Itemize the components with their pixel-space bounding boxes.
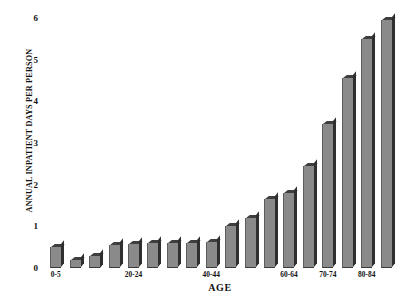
bar: [381, 20, 392, 268]
bar-slot: [376, 18, 395, 268]
bar: [245, 218, 256, 268]
bar: [225, 226, 236, 268]
bar: [361, 39, 372, 268]
bar-slot: [202, 18, 221, 268]
bar: [147, 243, 158, 268]
bar: [303, 166, 314, 268]
y-axis-title: ANNUAL INPATIENT DAYS PER PERSON: [25, 13, 34, 248]
y-axis-tick-label: 1: [34, 221, 39, 231]
bar: [167, 243, 178, 268]
y-axis-tick-label: 0: [34, 263, 39, 273]
bar-slot: [260, 18, 279, 268]
bar-slot: [299, 18, 318, 268]
bar: [128, 244, 139, 268]
bar-slot: [46, 18, 65, 268]
bar-slot: [240, 18, 259, 268]
x-axis-tick-label: 20-24: [125, 270, 142, 279]
y-axis-tick-label: 6: [34, 13, 39, 23]
bar: [50, 247, 61, 268]
bar: [264, 199, 275, 268]
bar-slot: [65, 18, 84, 268]
x-axis-tick-label: 60-64: [280, 270, 297, 279]
bar-slot: [221, 18, 240, 268]
bar: [70, 260, 81, 268]
bar-slot: [338, 18, 357, 268]
bar-chart: ANNUAL INPATIENT DAYS PER PERSON 0123456…: [0, 0, 405, 299]
bars-container: [42, 18, 398, 268]
bar-slot: [104, 18, 123, 268]
x-axis-tick-label: 40-44: [203, 270, 220, 279]
x-axis-title: AGE: [42, 282, 398, 293]
bar-slot: [143, 18, 162, 268]
bar: [283, 193, 294, 268]
bar-slot: [163, 18, 182, 268]
y-axis-tick-label: 5: [34, 55, 39, 65]
y-axis-tick-label: 4: [34, 96, 39, 106]
bar: [206, 242, 217, 268]
x-axis-ticks: 0-520-2440-4460-6470-7480-84: [42, 270, 398, 282]
bar: [342, 78, 353, 268]
bar: [89, 256, 100, 269]
bar: [186, 243, 197, 268]
y-axis-tick-label: 3: [34, 138, 39, 148]
bar-slot: [318, 18, 337, 268]
bar-slot: [85, 18, 104, 268]
bar: [109, 245, 120, 268]
bar: [322, 124, 333, 268]
y-axis-tick-label: 2: [34, 180, 39, 190]
x-axis-tick-label: 80-84: [358, 270, 375, 279]
bar-slot: [124, 18, 143, 268]
x-axis-tick-label: 0-5: [51, 270, 61, 279]
bar-slot: [182, 18, 201, 268]
x-axis-tick-label: 70-74: [319, 270, 336, 279]
bar-slot: [357, 18, 376, 268]
plot-area: 0123456: [42, 18, 398, 268]
bar-slot: [279, 18, 298, 268]
